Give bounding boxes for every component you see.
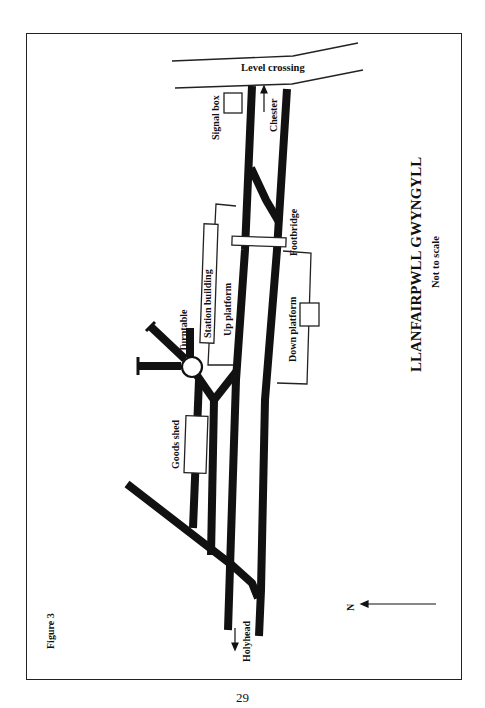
label-north: N xyxy=(345,604,356,611)
page-number: 29 xyxy=(0,690,485,706)
turntable-assembly xyxy=(138,322,202,377)
label-goods-shed: Goods shed xyxy=(170,420,181,469)
chester-arrow-icon xyxy=(261,86,267,112)
north-arrow-icon xyxy=(361,601,436,607)
main-tracks xyxy=(127,86,287,636)
siding-middle xyxy=(211,400,214,555)
figure-subtitle: Not to scale xyxy=(430,236,441,288)
label-signal-box: Signal box xyxy=(210,95,221,140)
label-up-platform: Up platform xyxy=(222,283,233,336)
label-turntable: Turntable xyxy=(178,310,189,352)
down-main-line xyxy=(259,89,287,636)
signal-box xyxy=(224,93,242,113)
goods-shed xyxy=(184,416,208,474)
label-down-platform: Down platform xyxy=(287,297,298,362)
turntable-circle xyxy=(182,357,202,377)
crossover xyxy=(251,168,279,222)
figure-title: LLANFAIRPWLL GWYNGYLL xyxy=(408,157,425,372)
down-platform-shelter xyxy=(300,303,319,326)
label-station-building: Station building xyxy=(202,269,213,338)
holyhead-arrow-icon xyxy=(232,628,238,650)
footbridge xyxy=(232,236,286,247)
figure-label: Figure 3 xyxy=(45,613,56,649)
label-level-crossing: Level crossing xyxy=(241,62,305,73)
label-chester: Chester xyxy=(268,99,279,132)
up-main-line xyxy=(228,86,252,630)
label-holyhead: Holyhead xyxy=(241,621,252,662)
label-footbridge: Footbridge xyxy=(288,209,299,256)
